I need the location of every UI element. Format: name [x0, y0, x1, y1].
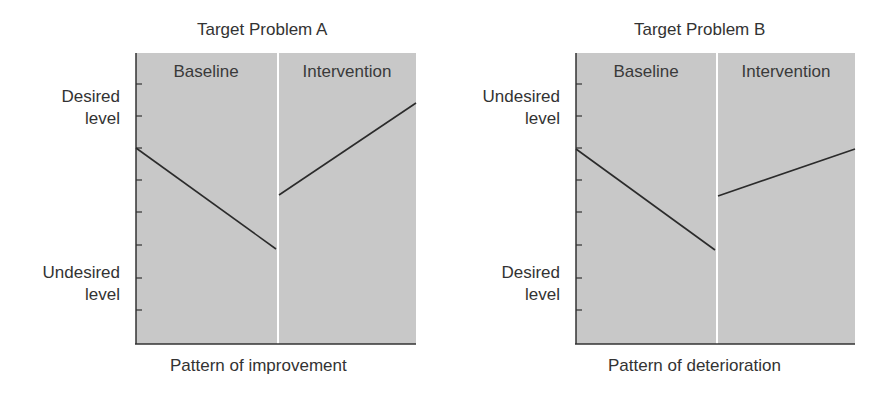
y-label-top-a-line1: Desired: [10, 86, 120, 108]
intervention-region-a: [279, 53, 416, 344]
y-label-top-b: Undesired level: [450, 86, 560, 130]
chart-panel-b: Target Problem B Undesired level Desired…: [445, 0, 890, 396]
plot-area-b: Baseline Intervention: [574, 52, 858, 348]
y-label-top-a-line2: level: [10, 108, 120, 130]
phase-label-intervention-a: Intervention: [303, 62, 392, 81]
y-label-bottom-b-line2: level: [450, 284, 560, 306]
plot-area-a: Baseline Intervention: [134, 52, 418, 348]
baseline-region-b: [576, 53, 716, 344]
y-label-bottom-a-line2: level: [10, 284, 120, 306]
y-label-bottom-a: Undesired level: [10, 262, 120, 306]
chart-caption-a: Pattern of improvement: [170, 356, 347, 376]
phase-label-intervention-b: Intervention: [742, 62, 831, 81]
phase-label-baseline-a: Baseline: [173, 62, 238, 81]
phase-label-baseline-b: Baseline: [613, 62, 678, 81]
y-label-bottom-b-line1: Desired: [450, 262, 560, 284]
y-label-bottom-b: Desired level: [450, 262, 560, 306]
chart-title-a: Target Problem A: [197, 20, 327, 40]
y-label-top-b-line2: level: [450, 108, 560, 130]
chart-panel-a: Target Problem A Desired level Undesired…: [0, 0, 445, 396]
y-label-top-a: Desired level: [10, 86, 120, 130]
plot-svg-a: Baseline Intervention: [134, 52, 418, 348]
chart-caption-b: Pattern of deterioration: [608, 356, 781, 376]
plot-svg-b: Baseline Intervention: [574, 52, 858, 348]
y-label-bottom-a-line1: Undesired: [10, 262, 120, 284]
chart-title-b: Target Problem B: [634, 20, 765, 40]
intervention-region-b: [718, 53, 855, 344]
y-label-top-b-line1: Undesired: [450, 86, 560, 108]
